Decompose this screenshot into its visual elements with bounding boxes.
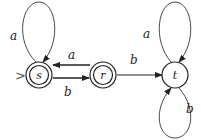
transition-s-r-b: b: [53, 78, 89, 99]
state-t: t: [162, 62, 188, 88]
state-r: r: [90, 62, 116, 88]
label-t-t-b: b: [186, 102, 194, 116]
label-r-s: a: [68, 48, 75, 62]
start-marker: >: [15, 68, 26, 83]
transition-t-t-a: a: [143, 2, 191, 62]
label-s-s: a: [10, 29, 17, 43]
automaton-diagram: a a b b a b > s r t: [0, 0, 201, 140]
label-s-r: b: [64, 85, 72, 99]
state-s: s: [26, 62, 52, 88]
transition-r-t-b: b: [117, 53, 162, 75]
label-t-t-a: a: [143, 27, 150, 41]
label-r-t: b: [130, 53, 138, 67]
state-s-label: s: [36, 69, 42, 82]
state-r-label: r: [100, 69, 106, 82]
transition-t-t-b: b: [159, 88, 193, 138]
transition-s-s-a: a: [10, 2, 55, 62]
state-t-label: t: [173, 69, 178, 82]
transition-r-s-a: a: [53, 48, 90, 65]
